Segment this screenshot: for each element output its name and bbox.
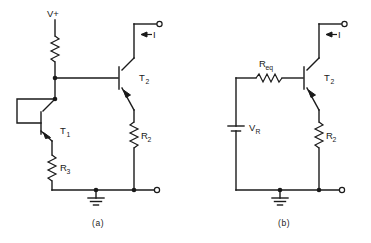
t1-emitter-arrow-a <box>44 133 51 139</box>
current-label-b: I <box>338 29 341 40</box>
voltage-source-label-sub-b: R <box>256 128 261 135</box>
current-arrow-icon-a <box>141 32 152 37</box>
output-node-bottom-b <box>317 188 322 193</box>
circuit-diagram-svg: V+ <box>0 0 371 243</box>
resistor-r2-label-sub-b: 2 <box>333 136 337 143</box>
circuit-figure: V+ <box>0 0 371 243</box>
caption-b: (b) <box>278 218 290 228</box>
t2-emitter-arrow-b <box>309 90 316 98</box>
resistor-req-b <box>256 74 282 82</box>
ground-symbol-b <box>272 198 288 205</box>
resistor-r3-a <box>48 155 56 181</box>
transistor-t2-label-b: T <box>324 72 330 83</box>
t2-collector-lead-a <box>122 58 134 70</box>
transistor-t1-label-a: T <box>60 125 66 136</box>
output-terminal-bottom-a[interactable] <box>154 187 159 192</box>
resistor-r3-label-sub-a: 3 <box>67 168 71 175</box>
resistor-req-label-sub-b: eq <box>266 64 274 72</box>
output-terminal-top-b[interactable] <box>342 21 347 26</box>
t1-diode-loop-a <box>17 99 55 123</box>
current-label-a: I <box>153 29 156 40</box>
subfigure-a: V+ <box>17 8 162 228</box>
t2-emitter-arrow-a <box>124 90 131 98</box>
transistor-t2-label-sub-a: 2 <box>146 78 150 85</box>
resistor-r2-label-sub-a: 2 <box>148 136 152 143</box>
subfigure-b: V R R eq I T 2 R 2 <box>228 21 347 228</box>
supply-label-a: V+ <box>47 8 59 19</box>
transistor-t2-label-a: T <box>139 72 145 83</box>
caption-a: (a) <box>92 218 104 228</box>
resistor-r2-a <box>130 122 138 148</box>
t2-collector-lead-b <box>307 58 319 70</box>
t1-collector-lead-a <box>43 99 55 111</box>
output-terminal-top-a[interactable] <box>157 21 162 26</box>
output-terminal-bottom-b[interactable] <box>339 187 344 192</box>
transistor-t1-label-sub-a: 1 <box>67 131 71 138</box>
voltage-source-vr-b <box>228 126 244 131</box>
resistor-r2-b <box>315 122 323 148</box>
transistor-t2-label-sub-b: 2 <box>331 78 335 85</box>
ground-symbol-a <box>88 198 104 205</box>
supply-resistor-a <box>51 36 59 62</box>
current-arrow-icon-b <box>326 32 337 37</box>
